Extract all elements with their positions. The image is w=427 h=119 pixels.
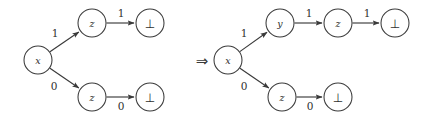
node-label: z [88, 92, 95, 103]
node-label-bottom-symbol: ⊥ [333, 91, 343, 105]
edge-label: 0 [118, 100, 125, 112]
node-label: x [35, 55, 41, 66]
node-label-bottom-symbol: ⊥ [390, 17, 400, 31]
edge-label: 1 [118, 7, 125, 19]
node-label: x [225, 55, 231, 66]
edge-label: 1 [241, 27, 248, 39]
nodes-layer: xz⊥z⊥xyz⊥z⊥ [24, 9, 409, 111]
node-label: y [276, 18, 283, 29]
node-label: z [278, 92, 285, 103]
node-label-bottom-symbol: ⊥ [145, 17, 155, 31]
node-label-bottom-symbol: ⊥ [145, 91, 155, 105]
edge-label: 1 [306, 7, 313, 19]
edge-label: 1 [364, 7, 371, 19]
edge-label: 0 [51, 80, 58, 92]
graph-rewrite-figure: xz⊥z⊥xyz⊥z⊥ 110011100 ⇒ [0, 0, 427, 119]
edge-label: 0 [307, 100, 314, 112]
edge-label: 0 [241, 80, 248, 92]
edge-label: 1 [52, 27, 59, 39]
implies-arrow-icon: ⇒ [196, 52, 209, 70]
node-label: z [88, 18, 95, 29]
node-label: z [334, 18, 341, 29]
figure-canvas: xz⊥z⊥xyz⊥z⊥ 110011100 ⇒ [0, 0, 427, 119]
